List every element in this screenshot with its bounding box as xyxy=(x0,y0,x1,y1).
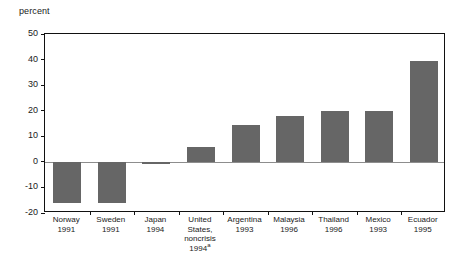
plot-frame: 50403020100-10-20 xyxy=(44,33,445,212)
x-label-line: Japan xyxy=(133,215,178,225)
x-axis-category-label: Argentina1993 xyxy=(222,215,267,234)
y-tick-mark xyxy=(41,213,45,214)
x-label-line: Thailand xyxy=(311,215,356,225)
x-label-line: Argentina xyxy=(222,215,267,225)
bar xyxy=(321,111,349,162)
x-label-line: Norway xyxy=(44,215,89,225)
x-axis-labels: Norway1991Sweden1991Japan1994UnitedState… xyxy=(44,215,445,263)
x-label-line: noncrisis xyxy=(178,234,223,244)
x-label-line: 1996 xyxy=(311,225,356,235)
x-axis-category-label: Thailand1996 xyxy=(311,215,356,234)
bar xyxy=(53,162,81,203)
x-label-line: 1995 xyxy=(400,225,445,235)
y-tick-mark xyxy=(41,59,45,60)
x-label-line: Sweden xyxy=(89,215,134,225)
x-label-line: States, xyxy=(178,225,223,235)
bar xyxy=(187,147,215,162)
y-tick-mark xyxy=(41,187,45,188)
footnote-marker: a xyxy=(207,242,210,248)
x-label-line: 1993 xyxy=(356,225,401,235)
x-axis-category-label: Norway1991 xyxy=(44,215,89,234)
x-axis-category-label: Japan1994 xyxy=(133,215,178,234)
x-label-line: Malaysia xyxy=(267,215,312,225)
y-tick-label: -10 xyxy=(25,181,38,192)
x-label-line: 1996 xyxy=(267,225,312,235)
y-tick-label: -20 xyxy=(25,207,38,218)
x-label-line: 1991 xyxy=(89,225,134,235)
plot-area: 50403020100-10-20 xyxy=(45,34,444,211)
x-label-line: Ecuador xyxy=(400,215,445,225)
y-tick-mark xyxy=(41,34,45,35)
x-axis-category-label: Sweden1991 xyxy=(89,215,134,234)
x-label-line: 1993 xyxy=(222,225,267,235)
y-tick-mark xyxy=(41,110,45,111)
x-axis-category-label: Malaysia1996 xyxy=(267,215,312,234)
bar xyxy=(98,162,126,203)
bar-chart: percent 50403020100-10-20 Norway1991Swed… xyxy=(0,0,458,264)
x-label-line: Mexico xyxy=(356,215,401,225)
bar xyxy=(410,61,438,162)
x-label-line: 1994a xyxy=(178,244,223,254)
y-tick-label: 50 xyxy=(28,28,38,39)
y-tick-label: 20 xyxy=(28,105,38,116)
x-label-line: 1994 xyxy=(133,225,178,235)
y-tick-label: 40 xyxy=(28,54,38,65)
bar xyxy=(276,116,304,162)
bar xyxy=(365,111,393,162)
y-tick-mark xyxy=(41,136,45,137)
y-tick-label: 30 xyxy=(28,79,38,90)
y-tick-label: 0 xyxy=(33,156,38,167)
x-label-line: United xyxy=(178,215,223,225)
x-axis-category-label: UnitedStates,noncrisis1994a xyxy=(178,215,223,253)
y-tick-mark xyxy=(41,85,45,86)
bar xyxy=(142,162,170,165)
x-axis-category-label: Mexico1993 xyxy=(356,215,401,234)
bar xyxy=(232,125,260,162)
x-label-line: 1991 xyxy=(44,225,89,235)
y-tick-label: 10 xyxy=(28,130,38,141)
x-axis-category-label: Ecuador1995 xyxy=(400,215,445,234)
y-axis-unit-label: percent xyxy=(19,6,50,17)
